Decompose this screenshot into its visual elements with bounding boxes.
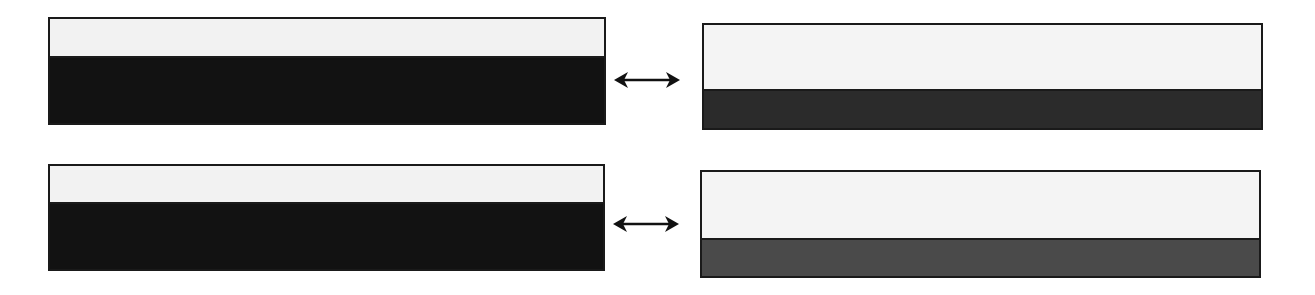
top-right-bar xyxy=(702,23,1263,130)
top-right-light-band xyxy=(704,25,1261,89)
top-left-bar xyxy=(48,17,606,125)
top-left-dark-band xyxy=(50,56,604,123)
bottom-right-dark-band xyxy=(702,238,1259,276)
bottom-left-dark-band xyxy=(50,202,603,269)
bottom-right-light-band xyxy=(702,172,1259,238)
top-right-dark-band xyxy=(704,89,1261,128)
top-left-light-band xyxy=(50,19,604,56)
bottom-right-bar xyxy=(700,170,1261,278)
bottom-left-bar xyxy=(48,164,605,271)
bottom-left-light-band xyxy=(50,166,603,202)
bidirectional-arrow-icon xyxy=(613,214,679,234)
bidirectional-arrow-icon xyxy=(614,70,680,90)
